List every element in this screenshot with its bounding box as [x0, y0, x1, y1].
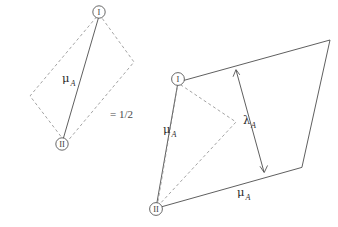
- left-edge-label-subscript: A: [70, 79, 76, 88]
- right-marker-bottom-label: II: [153, 204, 159, 214]
- right-left-edge-label-subscript: A: [171, 130, 177, 139]
- right-marker-top-label: I: [177, 74, 180, 84]
- right-marker-bottom: II: [150, 203, 163, 216]
- right-marker-top: I: [172, 73, 185, 86]
- lambda-arrow-head-bottom: [260, 166, 267, 173]
- left-marker-top: I: [93, 6, 105, 18]
- right-bottom-edge-label-group: μ A: [237, 185, 251, 202]
- right-left-edge-label-group: μ A: [163, 122, 177, 139]
- right-inner-arrow-label-group: λ A: [243, 113, 256, 130]
- relation-symbol: = 1/2: [110, 108, 133, 120]
- left-edge-label: μ: [62, 71, 70, 85]
- left-edge-label-group: μ A: [62, 71, 76, 88]
- diagram-canvas: I II μ A = 1/2: [0, 0, 338, 227]
- left-dashed-parallelogram: [30, 14, 134, 143]
- left-marker-top-label: I: [98, 7, 101, 17]
- right-bottom-edge-label: μ: [237, 185, 245, 199]
- right-bottom-edge-label-subscript: A: [245, 193, 251, 202]
- left-marker-bottom: II: [56, 138, 68, 150]
- left-shape-group: I II μ A: [30, 6, 134, 150]
- right-left-edge-label: μ: [163, 122, 171, 136]
- left-marker-bottom-label: II: [59, 139, 65, 149]
- right-shape-group: I II μ A μ A λ A: [150, 40, 330, 215]
- right-inner-arrow-label-subscript: A: [250, 121, 256, 130]
- geometry-figure: I II μ A = 1/2: [0, 0, 338, 227]
- right-inner-arrow-label: λ: [243, 113, 250, 127]
